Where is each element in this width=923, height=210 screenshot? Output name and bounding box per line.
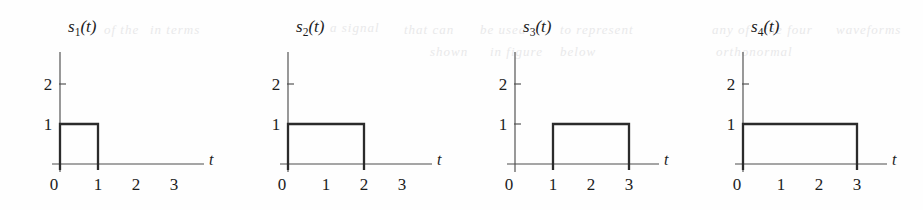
plot-panel-s3: s3(t)t120123: [455, 0, 685, 210]
x-tick-label: 1: [322, 175, 331, 194]
y-tick-label: 1: [499, 115, 508, 134]
x-tick-label: 1: [777, 175, 786, 194]
signal-label-argument: (t): [80, 17, 96, 36]
x-tick-label: 0: [505, 175, 514, 194]
signal-label-s3: s3(t): [523, 17, 552, 38]
x-tick-label: 3: [170, 175, 179, 194]
plot-panel-s2: s2(t)t120123: [228, 0, 458, 210]
x-tick-label: 2: [815, 175, 824, 194]
signal-figure: of thein termsa signalthat canbe usedto …: [0, 0, 923, 210]
signal-label-s4: s4(t): [751, 17, 780, 38]
signal-label-argument: (t): [763, 17, 779, 36]
x-tick-label: 1: [94, 175, 103, 194]
x-axis-label: t: [892, 151, 897, 168]
y-tick-label: 2: [272, 75, 281, 94]
x-tick-label: 2: [132, 175, 141, 194]
y-tick-label: 1: [727, 115, 736, 134]
signal-label-argument: (t): [308, 17, 324, 36]
x-tick-label: 1: [549, 175, 558, 194]
signal-label-argument: (t): [535, 17, 551, 36]
x-tick-label: 3: [853, 175, 862, 194]
y-tick-label: 1: [272, 115, 281, 134]
x-axis-label: t: [437, 151, 442, 168]
x-tick-label: 0: [278, 175, 287, 194]
pulse-waveform-s3: [553, 124, 629, 170]
x-tick-label: 2: [587, 175, 596, 194]
y-tick-label: 2: [499, 75, 508, 94]
plot-panel-s4: s4(t)t120123: [683, 0, 913, 210]
x-tick-label: 3: [398, 175, 407, 194]
pulse-waveform-s2: [288, 124, 364, 170]
signal-label-s2: s2(t): [296, 17, 325, 38]
x-tick-label: 3: [625, 175, 634, 194]
x-axis-label: t: [664, 151, 669, 168]
signal-label-s1: s1(t): [68, 17, 97, 38]
pulse-waveform-s4: [743, 124, 857, 170]
x-tick-label: 0: [50, 175, 59, 194]
x-tick-label: 2: [360, 175, 369, 194]
y-tick-label: 2: [44, 75, 53, 94]
x-axis-label: t: [209, 151, 214, 168]
plot-panel-s1: s1(t)t120123: [0, 0, 230, 210]
x-tick-label: 0: [733, 175, 742, 194]
y-tick-label: 2: [727, 75, 736, 94]
y-tick-label: 1: [44, 115, 53, 134]
pulse-waveform-s1: [60, 124, 98, 170]
